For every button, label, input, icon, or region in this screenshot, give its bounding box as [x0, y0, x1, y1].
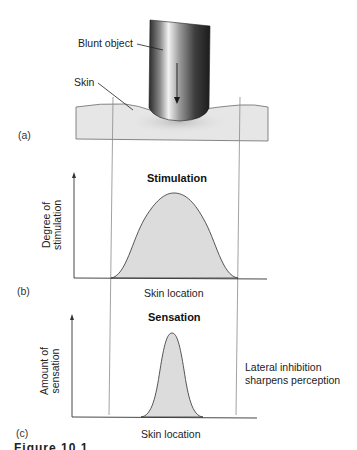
blunt-object-label: Blunt object	[78, 37, 133, 49]
sensation-y-label: Amount of sensation	[39, 335, 61, 407]
sensation-x-label: Skin location	[141, 428, 201, 440]
x-axis	[72, 417, 257, 418]
sensation-title: Sensation	[148, 311, 201, 323]
y-label-line2: stimulation	[52, 190, 63, 260]
note-line2: sharpens perception	[245, 374, 340, 387]
blunt-object	[149, 20, 210, 121]
figure-caption: Figure 10.1	[14, 441, 88, 450]
panel-a-tag: (a)	[18, 129, 31, 141]
y-axis-arrow-icon	[70, 314, 74, 320]
y-label-line2: sensation	[50, 335, 61, 407]
stimulation-y-label: Degree of stimulation	[41, 190, 63, 260]
stimulation-title: Stimulation	[147, 172, 207, 184]
note-line1: Lateral inhibition	[245, 361, 340, 374]
right-guide-line	[236, 97, 240, 415]
skin-label: Skin	[74, 76, 94, 88]
panel-c-tag: (c)	[16, 427, 28, 439]
panel-b-tag: (b)	[17, 285, 30, 297]
sensation-curve	[141, 333, 203, 417]
stimulation-x-label: Skin location	[144, 287, 204, 299]
left-guide-line	[109, 97, 113, 415]
stimulation-curve	[111, 193, 238, 278]
lateral-inhibition-note: Lateral inhibition sharpens perception	[245, 361, 340, 387]
y-axis-arrow-icon	[72, 172, 76, 178]
sensation-plot	[70, 314, 257, 418]
